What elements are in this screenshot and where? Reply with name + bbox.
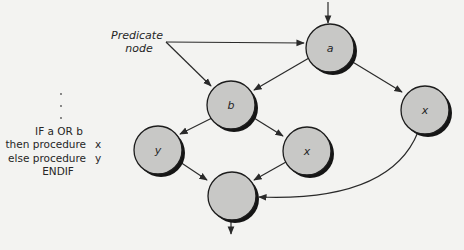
flow-graph-diagram: a b x y x Predicate: [0, 0, 464, 250]
node-join: [208, 172, 259, 223]
node-circle: [208, 172, 256, 220]
node-x-right: x: [401, 86, 452, 137]
node-label-y: y: [154, 144, 162, 157]
edge-annotation-to-a: [166, 42, 304, 43]
edge-b-to-y: [180, 118, 212, 134]
edge-a-to-b: [254, 58, 309, 90]
edges: [166, 2, 418, 234]
node-b: b: [207, 81, 258, 132]
node-label-b: b: [228, 99, 235, 112]
annotation-line-1: Predicate: [111, 29, 163, 42]
annotation-line-2: node: [125, 42, 153, 55]
predicate-node-annotation: Predicate node: [111, 29, 163, 55]
code-line-if: IF a OR b: [35, 125, 83, 137]
edge-a-to-x-right: [351, 61, 402, 92]
code-line-else-var: y: [95, 152, 101, 164]
node-label-x-right: x: [421, 104, 429, 117]
code-line-else: else procedure: [8, 152, 86, 164]
pseudocode-block: IF a OR b then procedure x else procedur…: [6, 93, 102, 177]
node-y: y: [134, 126, 185, 177]
edge-x-mid-to-join: [254, 162, 286, 180]
edge-annotation-to-b: [166, 42, 211, 86]
ellipsis-dot: [60, 93, 62, 95]
code-line-endif: ENDIF: [42, 165, 74, 177]
code-line-then-var: x: [95, 138, 101, 150]
ellipsis-dot: [60, 105, 62, 107]
ellipsis-dot: [60, 117, 62, 119]
node-label-a: a: [327, 42, 334, 55]
node-label-x-mid: x: [303, 145, 311, 158]
edge-x-right-to-join: [259, 132, 418, 197]
edge-b-to-x-mid: [254, 118, 283, 136]
node-a: a: [306, 24, 357, 75]
node-x-mid: x: [283, 127, 334, 178]
code-line-then: then procedure: [6, 138, 87, 150]
edge-y-to-join: [180, 162, 207, 180]
